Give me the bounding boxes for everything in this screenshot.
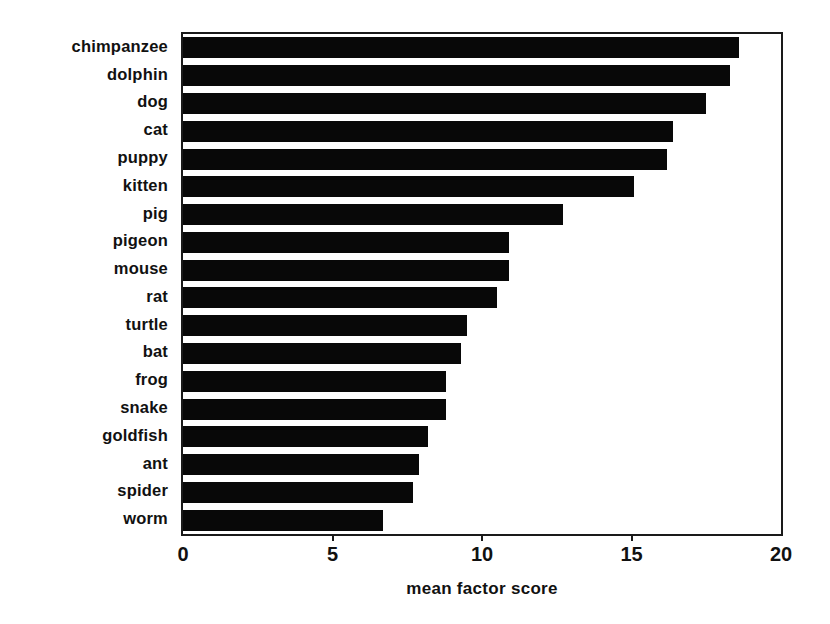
x-axis-tick-label: 15 — [620, 544, 642, 564]
y-axis-tick-label: goldfish — [0, 427, 168, 444]
y-axis-tick-label: ant — [0, 455, 168, 472]
x-axis-tick-label: 0 — [177, 544, 188, 564]
y-axis-tick-label: cat — [0, 121, 168, 138]
bars-layer — [183, 34, 781, 534]
y-axis-tick-label: rat — [0, 288, 168, 305]
x-axis-tick-mark — [332, 534, 334, 541]
bar — [183, 343, 461, 364]
y-axis-tick-label: pigeon — [0, 232, 168, 249]
bar — [183, 176, 634, 197]
x-axis-tick-label: 10 — [471, 544, 493, 564]
bar — [183, 121, 673, 142]
y-axis-tick-label: chimpanzee — [0, 38, 168, 55]
y-axis-tick-label: bat — [0, 343, 168, 360]
y-axis-tick-label: kitten — [0, 177, 168, 194]
bar — [183, 204, 563, 225]
bar — [183, 399, 446, 420]
plot-area — [181, 32, 783, 536]
x-axis-title: mean factor score — [181, 579, 783, 599]
bar — [183, 287, 497, 308]
bar — [183, 454, 419, 475]
bar — [183, 371, 446, 392]
bar — [183, 65, 730, 86]
x-axis-tick-mark — [631, 534, 633, 541]
bar — [183, 37, 739, 58]
x-axis-tick-label: 20 — [770, 544, 792, 564]
y-axis-tick-label: pig — [0, 205, 168, 222]
y-axis-category-labels: chimpanzeedolphindogcatpuppykittenpigpig… — [0, 32, 168, 536]
bar — [183, 149, 667, 170]
y-axis-tick-label: worm — [0, 510, 168, 527]
y-axis-tick-label: frog — [0, 371, 168, 388]
y-axis-tick-label: dolphin — [0, 66, 168, 83]
bar-chart: chimpanzeedolphindogcatpuppykittenpigpig… — [0, 0, 830, 624]
bar — [183, 426, 428, 447]
bar — [183, 232, 509, 253]
x-axis-tick-mark — [481, 534, 483, 541]
y-axis-tick-label: spider — [0, 482, 168, 499]
y-axis-tick-label: dog — [0, 93, 168, 110]
bar — [183, 93, 706, 114]
y-axis-tick-label: snake — [0, 399, 168, 416]
bar — [183, 315, 467, 336]
y-axis-tick-label: mouse — [0, 260, 168, 277]
y-axis-tick-label: turtle — [0, 316, 168, 333]
x-axis-tick-label: 5 — [327, 544, 338, 564]
bar — [183, 510, 383, 531]
y-axis-tick-label: puppy — [0, 149, 168, 166]
bar — [183, 260, 509, 281]
bar — [183, 482, 413, 503]
